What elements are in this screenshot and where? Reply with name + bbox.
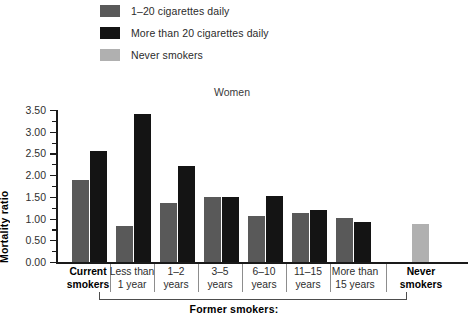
bar bbox=[134, 114, 151, 262]
x-axis-label: 1–2years bbox=[154, 266, 198, 291]
y-tick-minor bbox=[52, 164, 56, 165]
y-tick-major bbox=[50, 110, 57, 111]
legend-swatch-heavy-smoker bbox=[100, 27, 120, 39]
y-tick-major bbox=[50, 262, 57, 263]
legend-swatch-light-smoker bbox=[100, 5, 120, 17]
y-tick-label: 2.50 bbox=[26, 147, 46, 159]
x-axis-label-line: years bbox=[198, 279, 242, 292]
x-axis-label: 6–10years bbox=[242, 266, 286, 291]
bar bbox=[204, 197, 221, 262]
y-tick-major bbox=[50, 153, 57, 154]
bar bbox=[178, 166, 195, 262]
y-tick-major bbox=[50, 175, 57, 176]
bracket-label: Former smokers: bbox=[0, 303, 468, 315]
x-axis-label-line: 11–15 bbox=[284, 266, 332, 279]
y-axis-line bbox=[56, 110, 58, 262]
x-axis-label: 3–5years bbox=[198, 266, 242, 291]
x-axis-label: More than15 years bbox=[326, 266, 384, 291]
y-tick-major bbox=[50, 197, 57, 198]
bar bbox=[90, 151, 107, 262]
y-tick-minor bbox=[52, 121, 56, 122]
y-tick-major bbox=[50, 219, 57, 220]
bar bbox=[222, 197, 239, 262]
x-axis-label-line: years bbox=[284, 279, 332, 292]
bar bbox=[248, 216, 265, 262]
y-axis-title: Mortality ratio bbox=[0, 152, 12, 302]
bracket-arm-right bbox=[406, 292, 407, 300]
bar bbox=[412, 224, 429, 262]
x-axis-label-line: More than bbox=[326, 266, 384, 279]
legend-item: More than 20 cigarettes daily bbox=[100, 22, 400, 44]
bar bbox=[336, 218, 353, 262]
bracket-bar bbox=[99, 299, 407, 300]
bar bbox=[266, 196, 283, 262]
plot-area: 0.000.501.001.502.002.503.003.50 bbox=[56, 110, 459, 262]
y-tick-minor bbox=[52, 229, 56, 230]
x-axis-label: Less than1 year bbox=[103, 266, 161, 291]
bar bbox=[116, 226, 133, 262]
x-axis-label-line: Never bbox=[393, 266, 449, 279]
bar bbox=[354, 222, 371, 262]
x-axis-label-line: years bbox=[154, 279, 198, 292]
legend-label: More than 20 cigarettes daily bbox=[131, 27, 269, 39]
y-tick-major bbox=[50, 132, 57, 133]
bar bbox=[292, 213, 309, 262]
y-tick-label: 0.00 bbox=[26, 256, 46, 268]
x-axis-label-line: years bbox=[242, 279, 286, 292]
y-tick-label: 1.00 bbox=[26, 213, 46, 225]
y-tick-label: 0.50 bbox=[26, 234, 46, 246]
legend-label: Never smokers bbox=[131, 49, 203, 61]
x-axis-baseline bbox=[56, 262, 468, 264]
x-axis-label-line: 6–10 bbox=[242, 266, 286, 279]
legend-item: 1–20 cigarettes daily bbox=[100, 0, 400, 22]
bar bbox=[160, 203, 177, 262]
x-axis-label-line: Less than bbox=[103, 266, 161, 279]
y-tick-minor bbox=[52, 208, 56, 209]
legend-label: 1–20 cigarettes daily bbox=[131, 5, 229, 17]
legend-swatch-never-smoker bbox=[100, 49, 120, 61]
y-tick-label: 3.00 bbox=[26, 126, 46, 138]
x-axis-label: 11–15years bbox=[284, 266, 332, 291]
x-axis-label-line: 1–2 bbox=[154, 266, 198, 279]
former-smokers-bracket bbox=[99, 292, 407, 300]
x-axis-label-line: 3–5 bbox=[198, 266, 242, 279]
chart-title: Women bbox=[214, 86, 250, 98]
bar bbox=[72, 180, 89, 263]
y-tick-minor bbox=[52, 186, 56, 187]
y-tick-label: 2.00 bbox=[26, 169, 46, 181]
bar bbox=[310, 210, 327, 262]
y-tick-label: 3.50 bbox=[26, 104, 46, 116]
y-tick-minor bbox=[52, 143, 56, 144]
x-axis-label-line: 1 year bbox=[103, 279, 161, 292]
x-axis-label: Neversmokers bbox=[393, 266, 449, 291]
x-axis-label-line: 15 years bbox=[326, 279, 384, 292]
chart-legend: 1–20 cigarettes daily More than 20 cigar… bbox=[100, 0, 400, 66]
y-tick-major bbox=[50, 240, 57, 241]
y-tick-minor bbox=[52, 251, 56, 252]
x-axis-label-line: smokers bbox=[393, 279, 449, 292]
legend-item: Never smokers bbox=[100, 44, 400, 66]
y-tick-label: 1.50 bbox=[26, 191, 46, 203]
